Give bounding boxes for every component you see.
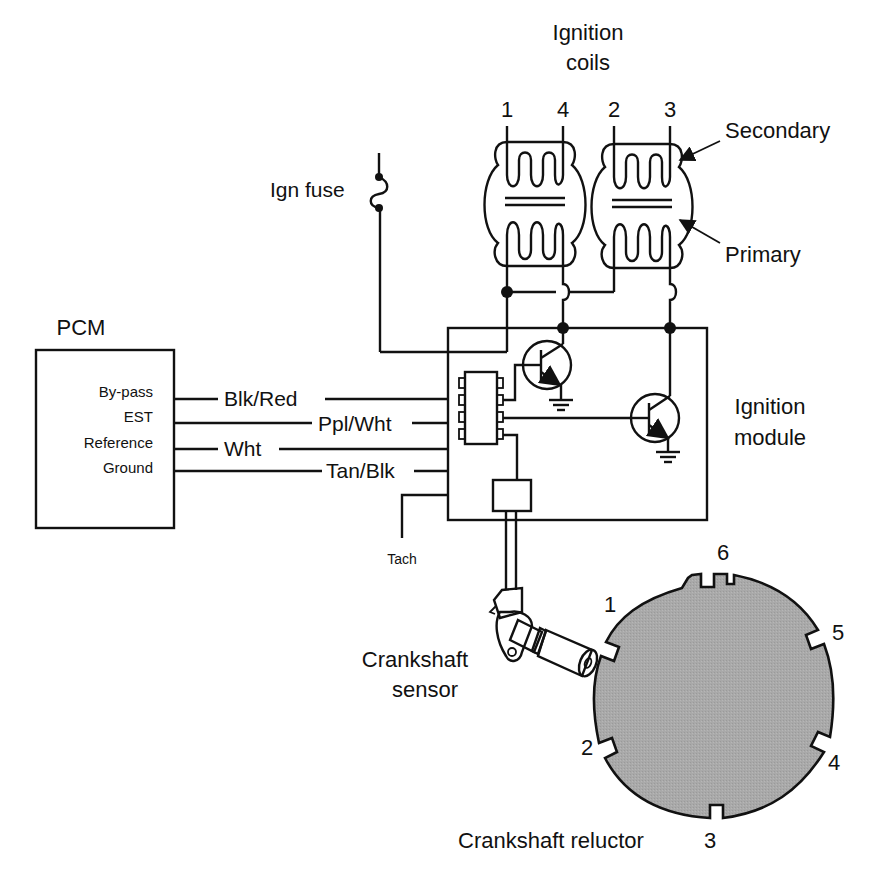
sensor-label-line2: sensor (392, 677, 458, 702)
fuse-label: Ign fuse (270, 178, 345, 201)
ignition-coils-title-line1: Ignition (553, 20, 624, 45)
coil-annotations: Secondary Primary (680, 118, 830, 267)
coil-lead-label-3: 3 (664, 97, 676, 122)
reluctor-wheel (594, 574, 833, 818)
notch-label-4: 4 (828, 750, 840, 775)
ignition-fuse: Ign fuse (270, 153, 387, 352)
tach-label: Tach (387, 551, 417, 567)
ignition-module-label-line1: Ignition (735, 394, 806, 419)
ground-icon (656, 452, 680, 462)
notch-label-5: 5 (832, 620, 844, 645)
crankshaft-sensor: Crankshaft sensor (362, 511, 601, 702)
wire-label-tan-blk: Tan/Blk (326, 459, 395, 482)
sensor-label-line1: Crankshaft (362, 647, 468, 672)
wire-label-ppl-wht: Ppl/Wht (318, 412, 392, 435)
notch-label-6: 6 (717, 540, 729, 565)
pcm-title: PCM (57, 315, 106, 340)
pcm-pin-bypass: By-pass (99, 383, 153, 400)
ignition-coil-1-4 (485, 126, 586, 266)
junction-dot (501, 286, 513, 298)
wire-label-blk-red: Blk/Red (224, 387, 298, 410)
pcm-pin-est: EST (124, 408, 153, 425)
ground-icon (549, 400, 573, 410)
primary-arrow-icon (680, 220, 720, 243)
notch-label-3: 3 (704, 828, 716, 853)
coil-lead-label-4: 4 (557, 97, 569, 122)
module-ic-chip (459, 372, 503, 444)
coil-lead-labels: 1 4 2 3 (501, 97, 676, 122)
ignition-coil-2-3 (592, 126, 693, 268)
ignition-module-box (448, 328, 707, 520)
fuse-icon (371, 177, 388, 208)
notch-label-1: 1 (604, 592, 616, 617)
transistor-2-icon (631, 328, 679, 452)
ignition-system-diagram: Ignition coils 1 4 2 3 Secondary (0, 0, 882, 870)
ignition-coils-title: Ignition coils (553, 20, 624, 75)
pcm-module-wiring: Blk/Red Ppl/Wht Wht Tan/Blk Tach (174, 387, 448, 567)
transistor-1-icon (523, 328, 571, 400)
ignition-coils-title-line2: coils (566, 50, 610, 75)
pcm-pin-reference: Reference (84, 434, 153, 451)
notch-label-2: 2 (581, 735, 593, 760)
pcm-pin-ground: Ground (103, 459, 153, 476)
sensor-interface-box (493, 480, 531, 511)
primary-label: Primary (725, 242, 801, 267)
wire-label-wht: Wht (224, 437, 262, 460)
coil-lead-label-2: 2 (608, 97, 620, 122)
coil-lead-label-1: 1 (501, 97, 513, 122)
coil-wiring (380, 266, 676, 352)
ignition-module-label-line2: module (734, 425, 806, 450)
pcm: PCM By-pass EST Reference Ground (36, 315, 174, 528)
secondary-label: Secondary (725, 118, 830, 143)
reluctor-label: Crankshaft reluctor (458, 828, 644, 853)
secondary-arrow-icon (680, 141, 720, 160)
